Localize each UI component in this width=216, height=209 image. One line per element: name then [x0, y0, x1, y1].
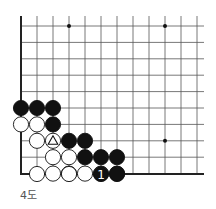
diagram-caption: 4도	[20, 186, 37, 202]
go-board: 1	[0, 0, 216, 185]
white-stone	[77, 166, 92, 181]
star-point-icon	[163, 24, 167, 28]
black-stone	[29, 100, 44, 115]
white-stone	[29, 117, 44, 132]
white-stone	[45, 166, 60, 181]
black-stone	[77, 133, 92, 148]
white-stone	[45, 150, 60, 165]
white-stone	[13, 117, 28, 132]
star-point-icon	[163, 139, 167, 143]
white-stone	[61, 150, 76, 165]
black-stone	[45, 100, 60, 115]
star-point-icon	[67, 24, 71, 28]
black-stone	[13, 100, 28, 115]
white-stone	[29, 133, 44, 148]
black-stone	[109, 150, 124, 165]
white-stone	[29, 166, 44, 181]
white-stone	[61, 166, 76, 181]
move-number-label: 1	[97, 168, 105, 182]
black-stone	[93, 150, 108, 165]
black-stone	[77, 150, 92, 165]
black-stone	[109, 166, 124, 181]
black-stone	[61, 133, 76, 148]
black-stone	[45, 117, 60, 132]
